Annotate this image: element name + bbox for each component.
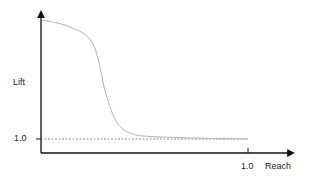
- x-tick-label: 1.0: [241, 161, 254, 171]
- y-tick-label: 1.0: [14, 133, 27, 143]
- x-axis-label: Reach: [265, 161, 291, 171]
- lift-curve: [42, 20, 248, 139]
- lift-reach-chart: [0, 0, 309, 179]
- y-axis-label: Lift: [13, 77, 25, 87]
